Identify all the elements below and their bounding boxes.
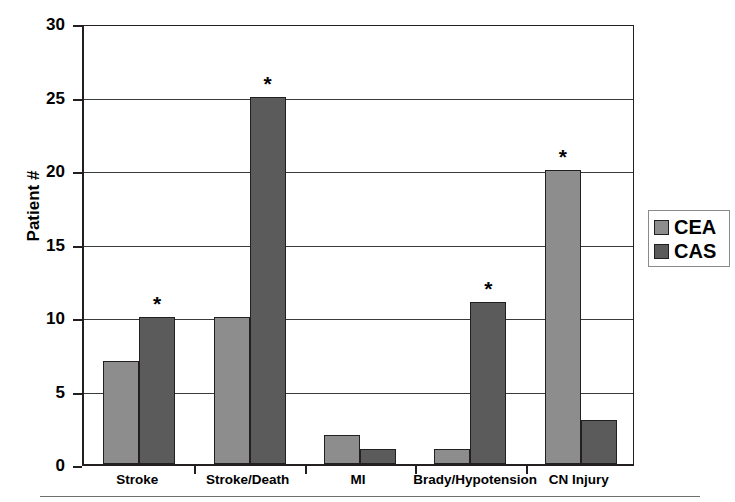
x-tick-label-stroke: Stroke: [82, 472, 192, 487]
bar-cea-brady-hypotension: [434, 449, 470, 464]
y-tick-label-15: 15: [5, 237, 65, 254]
significance-asterisk: *: [553, 146, 573, 167]
legend-swatch-cea-icon: [654, 220, 669, 235]
y-tick-label-20: 20: [5, 163, 65, 180]
y-axis-title: Patient #: [24, 136, 44, 276]
y-tick-label-25: 25: [5, 90, 65, 107]
y-tick-mark-30: [73, 25, 82, 27]
y-tick-label-5: 5: [5, 384, 65, 401]
bar-cas-cn-injury: [581, 420, 617, 464]
significance-asterisk: *: [478, 278, 498, 299]
y-tick-mark-15: [73, 246, 82, 248]
x-tick-label-stroke-death: Stroke/Death: [192, 472, 302, 487]
bar-cas-mi: [360, 449, 396, 464]
x-tick-label-mi: MI: [303, 472, 413, 487]
bar-cas-stroke: [139, 317, 175, 464]
gridline-30: [84, 25, 633, 26]
bar-cas-brady-hypotension: [470, 302, 506, 464]
legend-label-cea: CEA: [674, 217, 716, 237]
legend-entry-cea: CEA: [654, 215, 729, 239]
y-tick-label-10: 10: [5, 310, 65, 327]
y-tick-mark-0: [73, 466, 82, 468]
significance-asterisk: *: [147, 293, 167, 314]
bar-cea-stroke: [103, 361, 139, 464]
bar-cas-stroke-death: [250, 97, 286, 465]
y-tick-mark-5: [73, 393, 82, 395]
gridline-25: [84, 99, 633, 100]
legend-entry-cas: CAS: [654, 239, 729, 263]
y-tick-mark-10: [73, 319, 82, 321]
bar-cea-mi: [324, 435, 360, 464]
legend-label-cas: CAS: [674, 241, 716, 261]
bar-cea-stroke-death: [214, 317, 250, 464]
legend-swatch-cas-icon: [654, 244, 669, 259]
y-tick-mark-25: [73, 99, 82, 101]
chart-legend: CEA CAS: [648, 210, 730, 267]
significance-asterisk: *: [258, 73, 278, 94]
y-tick-label-30: 30: [5, 16, 65, 33]
bar-chart-figure: Patient # 051015202530 **** StrokeStroke…: [0, 0, 735, 502]
footer-divider: [40, 496, 700, 497]
plot-area: ****: [82, 25, 634, 466]
x-tick-label-cn-injury: CN Injury: [524, 472, 634, 487]
y-tick-mark-20: [73, 172, 82, 174]
bar-cea-cn-injury: [545, 170, 581, 464]
x-tick-label-brady-hypotension: Brady/Hypotension: [413, 472, 523, 487]
y-tick-label-0: 0: [5, 457, 65, 474]
